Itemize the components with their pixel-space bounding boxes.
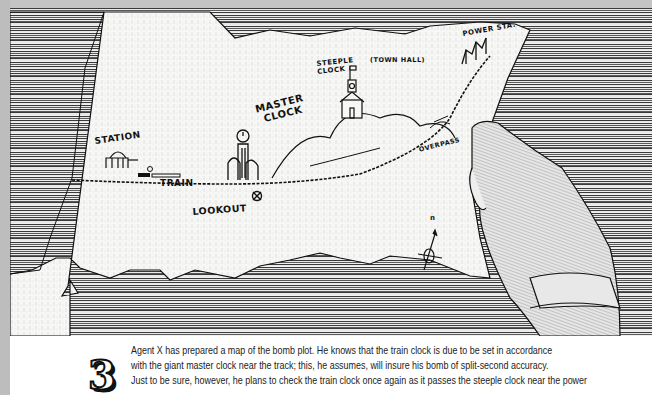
step-number: 3 (88, 355, 120, 395)
hand-illustration (470, 121, 620, 336)
top-frame-border (0, 0, 652, 8)
caption-line: Agent X has prepared a map of the bomb p… (131, 343, 647, 358)
caption-text: Agent X has prepared a map of the bomb p… (131, 343, 647, 388)
compass-north-label: n (430, 214, 435, 222)
caption-line: with the giant master clock near the tra… (131, 358, 647, 373)
caption-line: Just to be sure, however, he plans to ch… (131, 373, 647, 388)
map-illustration: STATION TRAIN MASTER CLOCK STEEPLE CLOCK… (10, 8, 652, 336)
map-drawing (10, 8, 652, 336)
map-label-train: TRAIN (160, 178, 193, 188)
left-frame-border (0, 0, 10, 395)
map-label-town-hall: (TOWN HALL) (370, 56, 425, 64)
